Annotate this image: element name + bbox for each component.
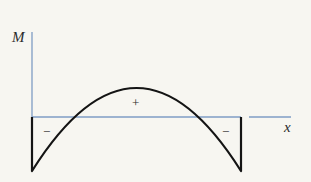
right-negative-region-label: − xyxy=(222,125,229,138)
moment-diagram xyxy=(0,0,311,182)
m-axis-label: M xyxy=(12,30,25,45)
x-axis-label: x xyxy=(284,120,291,135)
left-negative-region-label: − xyxy=(43,125,50,138)
positive-region-label: + xyxy=(132,96,139,109)
